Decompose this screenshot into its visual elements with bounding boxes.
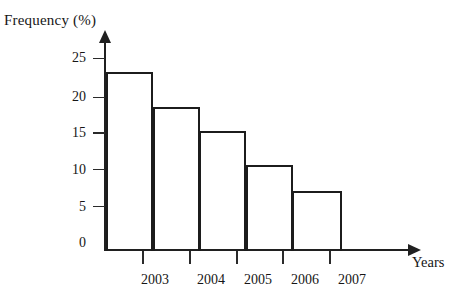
bar-2006: [246, 165, 293, 251]
y-axis-label-10: 10: [46, 163, 86, 177]
x-axis-tick-2003: [142, 251, 144, 264]
histogram-figure: Frequency (%) Years 25 20 15 10 5 0 2003…: [0, 0, 471, 304]
x-axis-label-2007: 2007: [322, 272, 382, 287]
x-axis-tick-2005: [236, 251, 238, 264]
y-axis-label-0: 0: [46, 236, 86, 250]
y-axis-tick-20: [93, 97, 105, 99]
x-axis-title: Years: [412, 254, 444, 271]
bar-2003: [106, 72, 153, 251]
y-axis-label-15: 15: [46, 126, 86, 140]
y-axis-tick-15: [93, 132, 105, 134]
bar-2007: [292, 191, 342, 251]
x-axis-tick-2006: [282, 251, 284, 264]
x-axis-tick-2004: [189, 251, 191, 264]
y-axis-tick-10: [93, 169, 105, 171]
y-axis-label-20: 20: [46, 90, 86, 104]
x-axis-tick-2007: [329, 251, 331, 264]
bar-2004: [153, 107, 200, 251]
x-axis-arrow-icon: [408, 244, 421, 256]
y-axis-label-5: 5: [46, 200, 86, 214]
y-axis-title: Frequency (%): [4, 12, 96, 29]
y-axis-tick-5: [93, 206, 105, 208]
bar-2005: [199, 131, 246, 251]
y-axis-arrow-icon: [99, 30, 111, 43]
y-axis-tick-25: [93, 58, 105, 60]
y-axis-label-25: 25: [46, 51, 86, 65]
x-axis-label-2003: 2003: [125, 272, 185, 287]
